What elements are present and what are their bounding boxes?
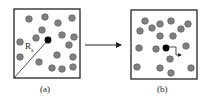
panel-b-caption: (b) xyxy=(157,84,168,94)
particle xyxy=(157,65,164,72)
particle xyxy=(157,33,164,40)
particle xyxy=(36,59,43,66)
particle xyxy=(55,20,62,27)
particle xyxy=(26,16,33,23)
particle xyxy=(39,27,46,34)
particle xyxy=(70,64,77,71)
tracer-particle-a xyxy=(45,37,52,44)
particle xyxy=(137,28,144,35)
particle xyxy=(49,65,56,72)
particle xyxy=(69,15,76,22)
particle xyxy=(157,21,164,28)
panel-a xyxy=(14,9,80,78)
particle xyxy=(183,43,190,50)
panel-b xyxy=(131,10,197,79)
radius-label: Rs xyxy=(25,41,33,53)
particle xyxy=(136,45,143,52)
particle xyxy=(54,52,61,59)
particle xyxy=(167,56,174,63)
particle xyxy=(33,35,40,42)
particle xyxy=(59,32,66,39)
particle xyxy=(168,18,175,25)
particle xyxy=(42,14,49,21)
tracer-particle-b xyxy=(163,45,170,52)
particle xyxy=(17,54,24,61)
panel-a-caption: (a) xyxy=(40,84,50,94)
radius-subscript: s xyxy=(31,47,33,53)
particle xyxy=(66,42,73,49)
particle xyxy=(149,25,156,32)
particle xyxy=(134,64,141,71)
particle xyxy=(70,54,77,61)
particle xyxy=(153,46,160,53)
particle xyxy=(71,34,78,41)
particle xyxy=(168,70,175,77)
particle xyxy=(178,26,185,33)
particle xyxy=(170,33,177,40)
particle xyxy=(59,66,66,73)
particle xyxy=(142,18,149,25)
particle xyxy=(185,21,192,28)
particle xyxy=(188,65,195,72)
particle xyxy=(17,39,24,46)
